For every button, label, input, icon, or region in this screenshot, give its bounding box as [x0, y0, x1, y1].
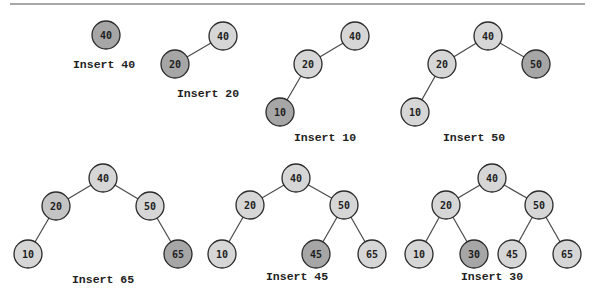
step-insert-65: 4020501065Insert 65	[14, 164, 192, 286]
tree-node: 40	[474, 22, 502, 50]
tree-node: 20	[42, 192, 70, 220]
node-value: 20	[440, 200, 452, 211]
node-value: 30	[468, 249, 480, 260]
node-value: 45	[506, 249, 518, 260]
tree-node: 10	[401, 98, 429, 126]
node-value: 20	[50, 201, 62, 212]
step-label: Insert 40	[73, 58, 135, 71]
tree-node: 20	[236, 191, 264, 219]
step-label: Insert 50	[443, 131, 505, 144]
tree-node-inserted: 65	[164, 240, 192, 268]
tree-node-inserted: 30	[460, 240, 488, 268]
node-value: 20	[244, 200, 256, 211]
step-label: Insert 30	[461, 270, 523, 283]
node-value: 20	[302, 59, 314, 70]
tree-node: 50	[136, 192, 164, 220]
tree-node: 65	[553, 240, 581, 268]
step-insert-40: 40Insert 40	[73, 21, 135, 71]
node-value: 45	[310, 249, 322, 260]
node-value: 20	[436, 59, 448, 70]
tree-node-inserted: 10	[266, 98, 294, 126]
insertion-steps: 40Insert 404020Insert 20402010Insert 104…	[14, 21, 581, 286]
step-insert-50: 40205010Insert 50	[401, 22, 550, 144]
tree-node: 40	[341, 22, 369, 50]
node-value: 50	[338, 200, 350, 211]
tree-node: 40	[478, 164, 506, 192]
node-value: 40	[100, 30, 112, 41]
step-label: Insert 20	[177, 87, 239, 100]
step-label: Insert 45	[266, 270, 328, 283]
node-value: 50	[530, 59, 542, 70]
bst-insertion-diagram: 40Insert 404020Insert 20402010Insert 104…	[0, 0, 596, 296]
step-insert-20: 4020Insert 20	[161, 22, 239, 100]
node-value: 40	[482, 31, 494, 42]
tree-node: 20	[294, 50, 322, 78]
tree-node: 40	[89, 164, 117, 192]
node-value: 20	[169, 59, 181, 70]
tree-node: 50	[525, 191, 553, 219]
node-value: 10	[409, 107, 421, 118]
tree-node-inserted: 45	[302, 240, 330, 268]
step-insert-45: 402050104565Insert 45	[208, 164, 386, 283]
step-insert-30: 40205010304565Insert 30	[405, 164, 581, 283]
step-label: Insert 10	[294, 131, 356, 144]
node-value: 50	[533, 200, 545, 211]
step-label: Insert 65	[72, 273, 134, 286]
tree-node: 40	[209, 22, 237, 50]
tree-node-inserted: 40	[92, 21, 120, 49]
tree-node: 40	[282, 164, 310, 192]
tree-node-inserted: 50	[522, 50, 550, 78]
tree-node: 50	[330, 191, 358, 219]
tree-node: 20	[432, 191, 460, 219]
node-value: 65	[366, 249, 378, 260]
tree-node: 10	[405, 240, 433, 268]
node-value: 40	[349, 31, 361, 42]
tree-node: 10	[14, 240, 42, 268]
tree-node: 65	[358, 240, 386, 268]
node-value: 40	[217, 31, 229, 42]
node-value: 40	[486, 173, 498, 184]
step-insert-10: 402010Insert 10	[266, 22, 369, 144]
node-value: 10	[413, 249, 425, 260]
node-value: 50	[144, 201, 156, 212]
node-value: 10	[22, 249, 34, 260]
node-value: 65	[172, 249, 184, 260]
node-value: 40	[97, 173, 109, 184]
tree-node: 45	[498, 240, 526, 268]
node-value: 10	[274, 107, 286, 118]
tree-node: 20	[428, 50, 456, 78]
tree-node-inserted: 20	[161, 50, 189, 78]
node-value: 40	[290, 173, 302, 184]
node-value: 10	[216, 249, 228, 260]
tree-node: 10	[208, 240, 236, 268]
node-value: 65	[561, 249, 573, 260]
